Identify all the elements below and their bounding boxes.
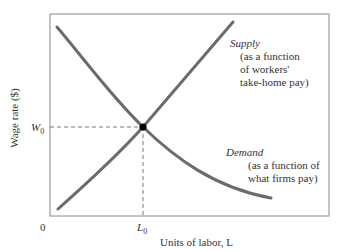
supply-curve — [58, 22, 233, 209]
supply-annotation-line1: (as a function — [240, 50, 300, 62]
demand-curve — [57, 27, 271, 198]
supply-annotation-line2: of workers' — [240, 63, 289, 75]
l0-sub: 0 — [143, 227, 147, 236]
plot-frame — [50, 14, 329, 216]
demand-annotation-line2: what firms pay) — [248, 172, 318, 184]
equilibrium-point — [139, 123, 146, 130]
x-axis-label: Units of labor, L — [160, 236, 233, 248]
w0-tick-label: W0 — [31, 121, 44, 138]
supply-annotation-line3: take-home pay) — [240, 76, 309, 88]
origin-label: 0 — [40, 221, 46, 233]
demand-annotation-line1: (as a function of — [248, 159, 320, 171]
w0-sub: 0 — [40, 127, 44, 136]
supply-title: Supply — [230, 37, 260, 49]
w0-main: W — [31, 121, 40, 133]
y-axis-label: Wage rate ($) — [8, 88, 20, 148]
labor-market-chart — [0, 0, 338, 251]
l0-tick-label: L0 — [137, 221, 147, 238]
demand-title: Demand — [226, 146, 263, 158]
